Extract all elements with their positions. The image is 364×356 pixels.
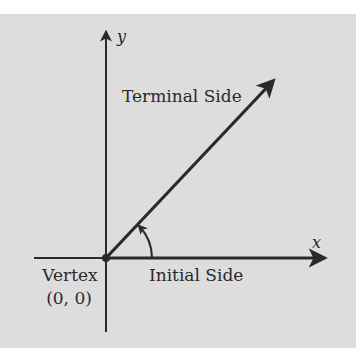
angle-diagram: y x Terminal Side Initial Side Vertex (0… xyxy=(0,0,364,356)
terminal-side-label: Terminal Side xyxy=(122,86,242,106)
initial-side-label: Initial Side xyxy=(149,265,243,285)
y-axis-label: y xyxy=(116,27,127,46)
vertex-label: Vertex xyxy=(41,265,98,285)
x-axis-label: x xyxy=(312,233,321,252)
vertex-coordinates-label: (0, 0) xyxy=(46,288,92,308)
angle-arc xyxy=(140,227,153,259)
vertex-point xyxy=(102,254,110,262)
terminal-side-ray xyxy=(106,81,273,258)
